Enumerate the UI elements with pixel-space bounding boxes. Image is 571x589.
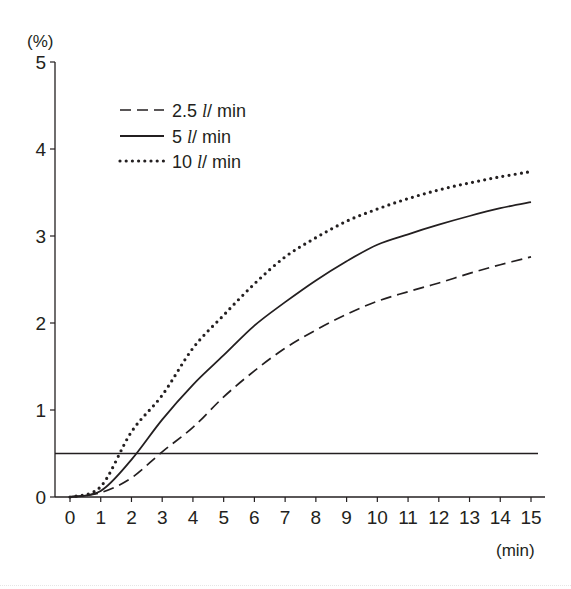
legend-item: 5 l/ min xyxy=(120,127,231,147)
x-tick-label: 3 xyxy=(157,507,168,528)
y-tick-label: 4 xyxy=(35,139,46,160)
x-tick-label: 13 xyxy=(459,507,480,528)
x-tick-label: 0 xyxy=(65,507,76,528)
x-tick-label: 6 xyxy=(249,507,260,528)
bottom-divider xyxy=(0,585,571,587)
y-tick-label: 2 xyxy=(35,313,46,334)
x-tick-label: 9 xyxy=(341,507,352,528)
legend-label: 5 l/ min xyxy=(172,127,231,147)
data-series xyxy=(70,172,531,497)
x-tick-label: 14 xyxy=(490,507,512,528)
legend-label: 10 l/ min xyxy=(172,152,241,172)
x-axis: 0123456789101112131415 xyxy=(55,497,545,528)
line-chart: 012345 0123456789101112131415 2.5 l/ min… xyxy=(0,0,571,589)
y-tick-label: 3 xyxy=(35,226,46,247)
x-tick-label: 8 xyxy=(311,507,322,528)
x-tick-label: 15 xyxy=(520,507,541,528)
x-tick-label: 10 xyxy=(367,507,388,528)
x-tick-label: 4 xyxy=(188,507,199,528)
x-tick-label: 2 xyxy=(126,507,137,528)
series-line-dashed xyxy=(70,257,531,497)
legend-item: 2.5 l/ min xyxy=(120,101,246,121)
x-tick-label: 12 xyxy=(428,507,449,528)
x-tick-label: 11 xyxy=(398,507,418,528)
x-axis-unit-label: (min) xyxy=(496,541,535,560)
y-tick-label: 5 xyxy=(35,52,46,73)
legend-label: 2.5 l/ min xyxy=(172,101,246,121)
legend: 2.5 l/ min5 l/ min10 l/ min xyxy=(120,101,246,172)
legend-item: 10 l/ min xyxy=(120,152,241,172)
y-tick-label: 0 xyxy=(35,487,46,508)
x-tick-label: 1 xyxy=(95,507,106,528)
y-axis-unit-label: (%) xyxy=(27,32,53,51)
y-tick-label: 1 xyxy=(35,400,46,421)
x-tick-label: 7 xyxy=(280,507,291,528)
x-tick-label: 5 xyxy=(218,507,229,528)
series-line-dotted xyxy=(70,172,531,497)
y-axis: 012345 xyxy=(35,52,55,508)
